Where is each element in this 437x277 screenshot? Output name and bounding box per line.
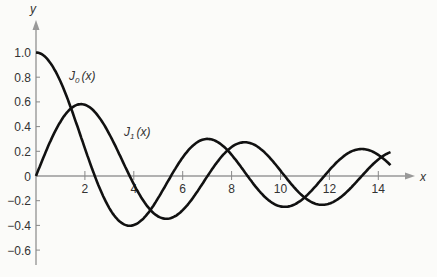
y-tick-label: −0.4 — [7, 219, 31, 233]
x-tick-label: 6 — [179, 182, 186, 196]
ticks: 24681012141.00.80.60.40.20−0.2−0.4−0.6 — [7, 46, 385, 258]
axes — [33, 20, 416, 265]
x-axis-arrow-icon — [405, 173, 415, 180]
x-tick-label: 2 — [82, 182, 89, 196]
y-axis-arrow-icon — [33, 20, 40, 30]
j1-label: J1(x) — [123, 125, 150, 141]
y-tick-label: 0.2 — [14, 145, 31, 159]
j0-label: J0(x) — [68, 69, 95, 85]
x-axis-label: x — [419, 170, 427, 184]
x-tick-label: 8 — [228, 182, 235, 196]
y-tick-label: 0 — [24, 170, 31, 184]
y-axis-label: y — [29, 2, 37, 16]
y-tick-label: 0.8 — [14, 71, 31, 85]
y-tick-label: 0.4 — [14, 120, 31, 134]
bessel-plot: 24681012141.00.80.60.40.20−0.2−0.4−0.6 y… — [0, 0, 437, 277]
y-tick-label: −0.2 — [7, 194, 31, 208]
y-tick-label: −0.6 — [7, 244, 31, 258]
y-tick-label: 1.0 — [14, 46, 31, 60]
x-tick-label: 12 — [323, 182, 337, 196]
y-tick-label: 0.6 — [14, 95, 31, 109]
x-tick-label: 10 — [274, 182, 288, 196]
x-tick-label: 14 — [372, 182, 386, 196]
